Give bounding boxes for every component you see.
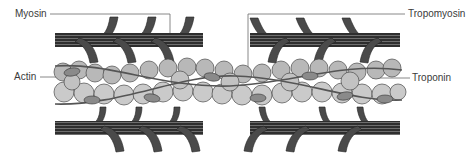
label-actin: Actin [14, 71, 36, 83]
sarcomere-diagram: Myosin Tropomyosin Actin Troponin [0, 0, 474, 168]
myosin-filament-bottom-right [244, 107, 400, 152]
myosin-filament-top-left [55, 17, 203, 63]
label-tropomyosin: Tropomyosin [408, 8, 465, 20]
myosin-filament-top-right [250, 18, 400, 63]
diagram-graphic [0, 0, 474, 168]
myosin-filament-bottom-left [55, 107, 203, 152]
label-myosin: Myosin [15, 8, 47, 20]
actin-filament [54, 58, 406, 105]
label-troponin: Troponin [412, 72, 451, 84]
